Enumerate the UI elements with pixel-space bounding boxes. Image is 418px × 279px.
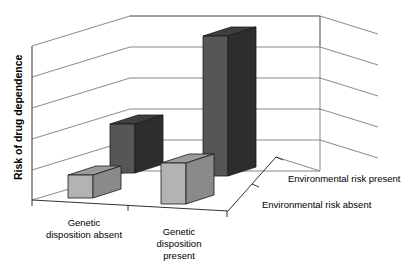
grid-line-5	[32, 16, 320, 46]
bar-side-face	[135, 115, 163, 173]
z-axis-label-risk-present: Environmental risk present	[288, 173, 401, 184]
right-grid-line-4	[320, 47, 378, 65]
z-axis-label-risk-absent: Environmental risk absent	[262, 199, 372, 210]
chart-container: Risk of drug dependence Genetic disposit…	[0, 0, 418, 279]
x-axis-label-present-line2: disposition	[157, 238, 202, 249]
x-axis-line	[32, 200, 228, 211]
bar-front-face	[68, 175, 93, 198]
bar-present-risk-absent[interactable]	[161, 154, 214, 204]
bar-front-face	[161, 163, 186, 204]
right-grid-line-5	[320, 16, 378, 34]
bar-side-face	[228, 27, 256, 176]
bar-side-face	[186, 154, 214, 204]
x-axis-label-absent-line2: disposition absent	[46, 229, 122, 240]
right-grid-line-1	[320, 140, 378, 158]
x-axis-label-present-line1: Genetic	[163, 226, 196, 237]
right-grid-line-2	[320, 109, 378, 127]
right-grid-line-3	[320, 78, 378, 96]
y-axis-label: Risk of drug dependence	[12, 54, 24, 180]
x-axis-label-absent-line1: Genetic	[68, 217, 101, 228]
grid-line-3	[32, 78, 320, 108]
bar-chart-3d: Risk of drug dependence Genetic disposit…	[0, 0, 418, 279]
x-axis-label-present-line3: present	[163, 250, 195, 261]
grid-line-2	[32, 109, 320, 139]
bar-group-back-row	[110, 27, 256, 176]
bar-absent-risk-present[interactable]	[110, 115, 163, 173]
grid-line-4	[32, 47, 320, 77]
floor-right-edge	[276, 157, 320, 171]
z-axis-tick-0	[252, 184, 259, 187]
bar-absent-risk-absent[interactable]	[68, 166, 121, 198]
